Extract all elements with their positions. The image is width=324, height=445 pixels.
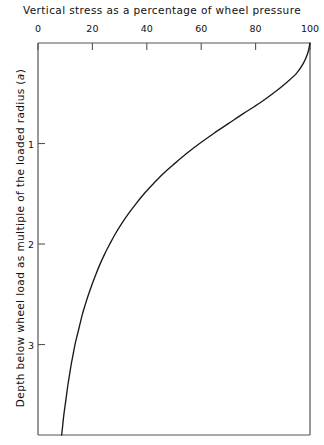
y-tick-marks — [38, 144, 45, 345]
stress-depth-curve — [62, 43, 310, 435]
chart-figure: Vertical stress as a percentage of wheel… — [0, 0, 324, 445]
plot-area — [0, 0, 324, 445]
x-tick-marks — [38, 43, 310, 50]
